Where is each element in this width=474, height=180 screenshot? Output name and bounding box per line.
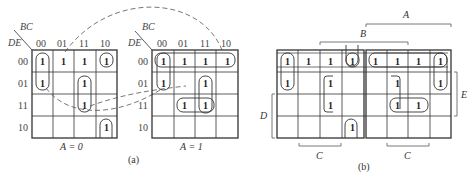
cell: 1 xyxy=(82,78,87,89)
cell: 1 xyxy=(306,56,311,67)
bracket-label-e: E xyxy=(460,89,467,100)
bracket-label-c-left: C xyxy=(316,150,323,161)
col-label: 11 xyxy=(79,38,89,49)
bracket-label-a: A xyxy=(402,9,410,20)
cells-a1: 1 1 1 1 1 1 1 1 xyxy=(161,56,230,111)
bracket-label-d: D xyxy=(259,110,268,121)
cells-a0: 1 1 1 1 1 1 1 1 xyxy=(40,56,109,133)
col-label: 11 xyxy=(200,38,210,49)
cell: 1 xyxy=(395,78,400,89)
karnaugh-map-figure: BC DE 00 01 11 10 00 01 11 10 1 1 1 1 1 … xyxy=(0,0,474,180)
row-label: 01 xyxy=(138,78,148,89)
row-label: 00 xyxy=(18,56,28,67)
cell: 1 xyxy=(161,56,166,67)
kmap-b xyxy=(277,50,451,138)
cell: 1 xyxy=(203,100,208,111)
map-caption: A = 0 xyxy=(59,141,83,152)
col-label: 00 xyxy=(36,38,46,49)
row-labels-a1: 00 01 11 10 xyxy=(138,56,148,133)
col-labels-a1: 00 01 11 10 xyxy=(157,38,231,49)
cell: 1 xyxy=(225,56,230,67)
cell: 1 xyxy=(285,78,290,89)
cell: 1 xyxy=(328,78,333,89)
cell: 1 xyxy=(416,100,421,111)
row-var-label: DE xyxy=(7,37,21,48)
dashed-connectors xyxy=(46,7,222,110)
cell: 1 xyxy=(438,56,443,67)
part-b-label: (b) xyxy=(358,161,370,173)
col-label: 10 xyxy=(100,38,110,49)
row-label: 11 xyxy=(18,100,28,111)
cell: 1 xyxy=(82,56,87,67)
groupings-a0 xyxy=(36,53,113,138)
cell: 1 xyxy=(373,56,378,67)
cell: 1 xyxy=(328,100,333,111)
cell: 1 xyxy=(203,78,208,89)
groupings-b xyxy=(277,45,448,138)
cell: 1 xyxy=(438,78,443,89)
bracket-label-b: B xyxy=(360,28,366,39)
cell: 1 xyxy=(182,56,187,67)
row-var-label: DE xyxy=(127,37,141,48)
cell: 1 xyxy=(61,56,66,67)
cell: 1 xyxy=(416,56,421,67)
cell: 1 xyxy=(395,100,400,111)
row-label: 00 xyxy=(138,56,148,67)
cell: 1 xyxy=(182,100,187,111)
col-label: 01 xyxy=(57,38,67,49)
cell: 1 xyxy=(104,122,109,133)
cell: 1 xyxy=(350,122,355,133)
cell: 1 xyxy=(285,56,290,67)
col-label: 01 xyxy=(178,38,188,49)
col-label: 00 xyxy=(157,38,167,49)
cell: 1 xyxy=(328,56,333,67)
map-caption: A = 1 xyxy=(179,141,203,152)
col-var-label: BC xyxy=(142,21,155,32)
part-a-label: (a) xyxy=(128,154,139,166)
cell: 1 xyxy=(203,56,208,67)
cell: 1 xyxy=(395,56,400,67)
cell: 1 xyxy=(40,78,45,89)
col-label: 10 xyxy=(221,38,231,49)
cell: 1 xyxy=(104,56,109,67)
col-labels-a0: 00 01 11 10 xyxy=(36,38,110,49)
row-labels-a0: 00 01 11 10 xyxy=(18,56,28,133)
row-label: 10 xyxy=(18,122,28,133)
col-var-label: BC xyxy=(20,21,33,32)
row-label: 10 xyxy=(138,122,148,133)
cell: 1 xyxy=(40,56,45,67)
bracket-label-c-right: C xyxy=(404,150,411,161)
cell: 1 xyxy=(161,78,166,89)
row-label: 11 xyxy=(138,100,148,111)
row-label: 01 xyxy=(18,78,28,89)
